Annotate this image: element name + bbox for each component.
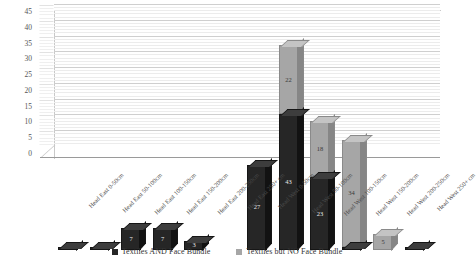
gridline-minor	[54, 23, 440, 24]
gridline-minor	[54, 102, 440, 103]
bar-value-label: 7	[154, 236, 172, 243]
gridline-minor	[54, 13, 440, 14]
gridline-minor	[54, 89, 440, 90]
gridline-minor	[54, 86, 440, 87]
gridline-minor	[54, 29, 440, 30]
gridline-minor	[54, 61, 440, 62]
gridline	[54, 4, 440, 5]
gridline-minor	[54, 92, 440, 93]
gridline	[54, 36, 440, 37]
gridline-minor	[54, 70, 440, 71]
gridline	[54, 20, 440, 21]
bar-segment-textiles-no-face-bundle[interactable]: 18	[310, 121, 330, 178]
gridline-minor	[54, 105, 440, 106]
legend-item[interactable]: Textiles AND Face Bundle	[112, 247, 211, 256]
gridline	[54, 83, 440, 84]
bar-value-label: 18	[311, 146, 329, 153]
legend-label: Textiles but NO Face Bundle	[246, 247, 342, 256]
gridline	[54, 51, 440, 52]
bar-value-label: 22	[280, 76, 298, 83]
gridline-minor	[54, 39, 440, 40]
legend-item[interactable]: Textiles but NO Face Bundle	[236, 247, 342, 256]
gridline-minor	[54, 80, 440, 81]
bar-value-label: 7	[122, 236, 140, 243]
gridline-minor	[54, 58, 440, 59]
gridline-minor	[54, 96, 440, 97]
gridline	[54, 99, 440, 100]
gridline-minor	[54, 45, 440, 46]
gridline-minor	[54, 77, 440, 78]
legend-label: Textiles AND Face Bundle	[122, 247, 211, 256]
gridline-minor	[54, 32, 440, 33]
gridline-minor	[54, 111, 440, 112]
bar-segment-textiles-no-face-bundle[interactable]: 22	[279, 45, 299, 114]
gridline-minor	[54, 73, 440, 74]
gridline-minor	[54, 64, 440, 65]
legend-swatch	[112, 249, 118, 255]
gridline-minor	[54, 26, 440, 27]
gridline	[54, 67, 440, 68]
gridline-minor	[54, 48, 440, 49]
gridline-minor	[54, 108, 440, 109]
gridline-minor	[54, 17, 440, 18]
chart-legend: Textiles AND Face BundleTextiles but NO …	[0, 247, 454, 256]
bar-value-label: 5	[374, 239, 392, 246]
gridline-minor	[54, 7, 440, 8]
legend-swatch	[236, 249, 242, 255]
x-axis-tick-label: Head East 0-50cm	[88, 172, 125, 209]
gridline-minor	[54, 54, 440, 55]
x-axis-labels: Head East 0-50cmHead East 50-100cmHead E…	[54, 172, 454, 234]
gridline-minor	[54, 42, 440, 43]
gridline-minor	[54, 10, 440, 11]
